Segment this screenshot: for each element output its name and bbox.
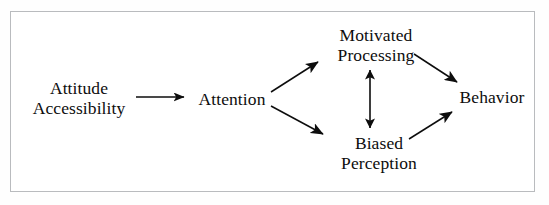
node-biased-perception-line1: Biased [330, 133, 428, 153]
node-attitude-accessibility-line1: Attitude [23, 78, 135, 98]
node-biased-perception-line2: Perception [330, 153, 428, 173]
node-motivated-processing-line2: Processing [324, 45, 428, 65]
diagram-figure: Attitude Accessibility Attention Motivat… [0, 0, 549, 205]
node-attention: Attention [190, 89, 274, 109]
edge-attention-to-motivated-processing [271, 62, 318, 92]
node-behavior-line1: Behavior [452, 87, 532, 107]
node-motivated-processing-line1: Motivated [324, 25, 428, 45]
node-biased-perception: Biased Perception [330, 133, 428, 173]
edge-attention-to-biased-perception [271, 106, 323, 134]
node-attention-line1: Attention [190, 89, 274, 109]
node-behavior: Behavior [452, 87, 532, 107]
node-attitude-accessibility: Attitude Accessibility [23, 78, 135, 118]
node-attitude-accessibility-line2: Accessibility [23, 98, 135, 118]
node-motivated-processing: Motivated Processing [324, 25, 428, 65]
